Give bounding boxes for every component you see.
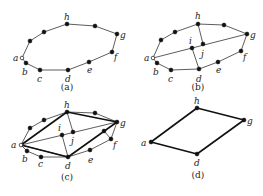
vertex — [93, 111, 97, 115]
vertex-label: b — [153, 67, 159, 77]
vertex — [42, 30, 46, 34]
edge — [153, 34, 247, 58]
panel-a: abcdefgh(a) — [13, 12, 126, 92]
vertex — [71, 130, 75, 134]
vertex — [66, 68, 70, 72]
edge — [62, 135, 68, 157]
vertex-label: g — [120, 30, 126, 40]
bold-edge — [151, 108, 197, 142]
bold-edge — [67, 112, 117, 122]
panel-c: abcdefghij(c) — [11, 100, 126, 182]
vertex-label: b — [22, 67, 28, 77]
vertex-label: f — [112, 140, 118, 150]
vertex — [28, 126, 32, 130]
vertex — [20, 56, 24, 60]
vertex — [25, 149, 29, 153]
vertex — [28, 39, 32, 43]
vertex — [190, 46, 194, 50]
bold-edge — [197, 108, 244, 120]
vertex — [38, 68, 42, 72]
vertex — [169, 68, 173, 72]
vertex — [195, 152, 199, 156]
vertex — [242, 118, 246, 122]
edge — [192, 48, 199, 69]
vertex-label: d — [65, 161, 71, 171]
vertex-label: e — [87, 65, 92, 75]
vertex-label: j — [69, 136, 74, 146]
vertex — [159, 38, 163, 42]
edge — [21, 122, 117, 145]
vertex-label: a — [11, 140, 16, 150]
vertex — [173, 30, 177, 34]
vertex — [93, 24, 97, 28]
vertex-label: c — [38, 159, 43, 169]
vertex-label: h — [64, 100, 70, 110]
vertex-label: d — [194, 158, 200, 168]
vertex — [60, 133, 64, 137]
vertex-label: j — [199, 49, 204, 59]
panel-caption: (c) — [61, 172, 73, 182]
graph-diagram: abcdefgh(a)abcdefghij(b)abcdefghij(c)adg… — [0, 0, 263, 196]
panel-d: adgh(d) — [141, 96, 253, 180]
vertex — [87, 60, 91, 64]
vertex — [149, 140, 153, 144]
vertex — [222, 23, 226, 27]
vertex — [66, 155, 70, 159]
vertex-label: i — [189, 36, 192, 46]
cycle-edge — [22, 24, 117, 70]
panel-caption: (b) — [192, 82, 205, 92]
vertex — [115, 120, 119, 124]
vertex — [19, 143, 23, 147]
vertex-label: a — [144, 53, 149, 63]
vertex — [201, 42, 205, 46]
vertex-label: e — [216, 65, 221, 75]
vertex-label: g — [247, 116, 253, 126]
vertex — [102, 129, 106, 133]
vertex-label: g — [250, 30, 256, 40]
bold-edge — [197, 120, 244, 154]
vertex — [245, 32, 249, 36]
vertex — [42, 118, 46, 122]
vertex — [65, 22, 69, 26]
vertex — [195, 106, 199, 110]
vertex-label: f — [242, 52, 248, 62]
bold-edge — [151, 142, 197, 154]
vertex-label: e — [88, 155, 93, 165]
vertex-label: c — [168, 74, 173, 84]
vertex-label: a — [13, 53, 18, 63]
edge — [198, 24, 203, 44]
panel-caption: (d) — [192, 170, 205, 180]
vertex — [155, 61, 159, 65]
vertex — [88, 148, 92, 152]
vertex — [196, 22, 200, 26]
vertex-label: c — [37, 74, 42, 84]
vertex-label: h — [194, 96, 200, 106]
vertex — [216, 60, 220, 64]
vertex — [151, 56, 155, 60]
vertex-label: b — [22, 154, 28, 164]
vertex-label: h — [64, 12, 70, 22]
vertex — [115, 32, 119, 36]
edge — [67, 112, 73, 132]
vertex — [24, 61, 28, 65]
panel-caption: (a) — [61, 82, 73, 92]
panel-b: abcdefghij(b) — [144, 11, 256, 92]
vertex-label: i — [58, 123, 61, 133]
vertex-label: a — [141, 138, 146, 148]
vertex — [197, 67, 201, 71]
vertex — [65, 110, 69, 114]
vertex-label: h — [195, 11, 201, 21]
vertex-label: f — [113, 52, 119, 62]
vertex-label: g — [120, 118, 126, 128]
